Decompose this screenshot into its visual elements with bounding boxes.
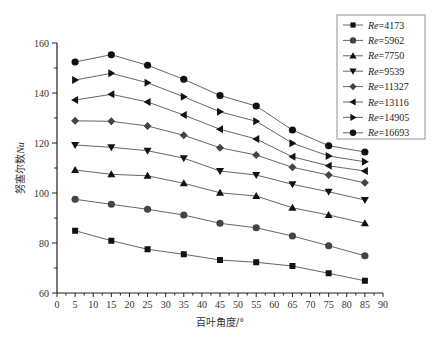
hexagon-marker-icon: [144, 62, 151, 69]
square-legend-icon: [350, 22, 355, 27]
square-marker-icon: [145, 246, 151, 252]
circle-marker-icon: [253, 224, 260, 231]
triangle-left-marker-icon: [252, 135, 259, 143]
x-tick-label: 55: [251, 299, 261, 310]
circle-marker-icon: [361, 252, 368, 259]
hexagon-marker-icon: [72, 58, 79, 65]
triangle-left-marker-icon: [216, 125, 223, 133]
x-tick-label: 5: [73, 299, 78, 310]
legend-label: Re=11327: [367, 81, 409, 92]
circle-marker-icon: [289, 232, 296, 239]
y-tick-label: 120: [34, 138, 49, 149]
x-tick-label: 15: [106, 299, 116, 310]
triangle-right-marker-icon: [108, 69, 115, 77]
circle-marker-icon: [108, 201, 115, 208]
y-axis-title: 努塞尔数Nu: [14, 142, 26, 194]
y-tick-label: 160: [34, 38, 49, 49]
hexagon-marker-icon: [216, 92, 223, 99]
diamond-marker-icon: [71, 117, 79, 125]
x-tick-label: 25: [143, 299, 153, 310]
triangle-right-marker-icon: [72, 76, 79, 84]
triangle-right-marker-icon: [145, 79, 152, 87]
diamond-marker-icon: [107, 117, 115, 125]
y-tick-label: 140: [34, 88, 49, 99]
hexagon-marker-icon: [325, 142, 332, 149]
legend-label: Re=14905: [367, 112, 409, 123]
series-lines: [75, 55, 365, 281]
legend-label: Re=4173: [367, 20, 404, 31]
x-tick-label: 60: [269, 299, 279, 310]
circle-legend-icon: [350, 37, 356, 43]
square-marker-icon: [326, 270, 332, 276]
square-marker-icon: [181, 251, 187, 257]
series-markers: [71, 51, 369, 284]
x-axis-title: 百叶角度/°: [196, 316, 244, 328]
legend-label: Re=16693: [367, 127, 409, 138]
legend-label: Re=7750: [367, 50, 404, 61]
square-marker-icon: [217, 257, 223, 263]
square-marker-icon: [289, 263, 295, 269]
chart-canvas: 0510152025303540455055606570758085906080…: [0, 0, 438, 343]
legend-label: Re=9539: [367, 66, 404, 77]
triangle-right-marker-icon: [253, 117, 260, 125]
diamond-marker-icon: [144, 122, 152, 130]
square-marker-icon: [108, 238, 114, 244]
triangle-left-marker-icon: [361, 167, 368, 175]
x-tick-label: 75: [324, 299, 334, 310]
x-tick-label: 90: [378, 299, 388, 310]
legend-label: Re=5962: [367, 35, 404, 46]
triangle-right-marker-icon: [289, 139, 296, 147]
diamond-marker-icon: [216, 144, 224, 152]
triangle-up-marker-icon: [71, 166, 79, 173]
x-tick-label: 30: [161, 299, 171, 310]
diamond-marker-icon: [361, 179, 369, 187]
x-tick-label: 20: [124, 299, 134, 310]
diamond-marker-icon: [180, 131, 188, 139]
x-tick-label: 65: [287, 299, 297, 310]
hexagon-marker-icon: [361, 148, 368, 155]
triangle-down-marker-icon: [361, 197, 369, 204]
hexagon-marker-icon: [108, 51, 115, 58]
circle-marker-icon: [180, 211, 187, 218]
x-tick-label: 40: [197, 299, 207, 310]
axes: 0510152025303540455055606570758085906080…: [34, 38, 388, 311]
y-tick-label: 60: [39, 288, 49, 299]
x-tick-label: 10: [88, 299, 98, 310]
x-tick-label: 0: [55, 299, 60, 310]
square-marker-icon: [362, 278, 368, 284]
x-tick-label: 70: [306, 299, 316, 310]
diamond-marker-icon: [325, 171, 333, 179]
series-line-re-7750: [75, 170, 365, 223]
x-tick-label: 80: [342, 299, 352, 310]
triangle-left-marker-icon: [144, 98, 151, 106]
square-marker-icon: [72, 228, 78, 234]
x-tick-label: 35: [179, 299, 189, 310]
triangle-right-marker-icon: [181, 93, 188, 101]
triangle-right-marker-icon: [326, 152, 333, 160]
y-tick-label: 100: [34, 188, 49, 199]
y-tick-label: 80: [39, 238, 49, 249]
hexagon-marker-icon: [289, 126, 296, 133]
triangle-right-marker-icon: [362, 158, 369, 166]
x-tick-label: 85: [360, 299, 370, 310]
hexagon-marker-icon: [253, 102, 260, 109]
hexagon-marker-icon: [180, 76, 187, 83]
circle-marker-icon: [216, 220, 223, 227]
x-tick-label: 50: [233, 299, 243, 310]
circle-marker-icon: [72, 196, 79, 203]
diamond-marker-icon: [288, 163, 296, 171]
triangle-left-marker-icon: [325, 162, 332, 170]
triangle-left-marker-icon: [107, 90, 114, 98]
x-tick-label: 45: [215, 299, 225, 310]
triangle-left-marker-icon: [288, 153, 295, 161]
legend-label: Re=13116: [367, 97, 409, 108]
square-marker-icon: [253, 259, 259, 265]
circle-marker-icon: [325, 242, 332, 249]
triangle-left-marker-icon: [180, 111, 187, 119]
diamond-marker-icon: [252, 151, 260, 159]
series-line-re-13116: [75, 94, 365, 171]
series-line-re-5962: [75, 199, 365, 256]
circle-marker-icon: [144, 206, 151, 213]
series-line-re-16693: [75, 55, 365, 152]
series-line-re-4173: [75, 231, 365, 281]
